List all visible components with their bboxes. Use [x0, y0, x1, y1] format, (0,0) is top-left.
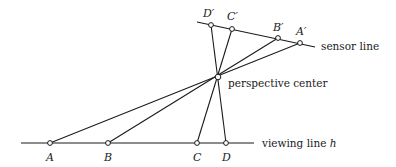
- perspective-center-label: perspective center: [228, 77, 329, 89]
- label-a: A: [45, 151, 54, 164]
- point-a-prime: [298, 41, 303, 46]
- point-c-prime: [230, 27, 235, 32]
- ray-a: [50, 43, 300, 143]
- label-a-prime: A′: [295, 25, 307, 38]
- point-b: [106, 141, 111, 146]
- perspective-center-point: [215, 74, 221, 80]
- point-d: [224, 141, 229, 146]
- label-c: C: [193, 151, 202, 164]
- viewing-line-label: viewing line h: [261, 137, 336, 149]
- perspective-projection-diagram: ABCDD′C′B′A′perspective centersensor lin…: [0, 0, 396, 167]
- point-b-prime: [276, 36, 281, 41]
- label-b-prime: B′: [272, 21, 284, 34]
- label-c-prime: C′: [227, 10, 238, 23]
- ray-b: [108, 38, 278, 143]
- label-d: D: [221, 151, 231, 164]
- point-d-prime: [209, 23, 214, 28]
- ray-c: [197, 29, 232, 143]
- label-b: B: [103, 151, 112, 164]
- label-d-prime: D′: [202, 7, 215, 20]
- point-c: [195, 141, 200, 146]
- sensor-line-label: sensor line: [321, 40, 379, 52]
- point-a: [48, 141, 53, 146]
- ray-d: [211, 25, 226, 143]
